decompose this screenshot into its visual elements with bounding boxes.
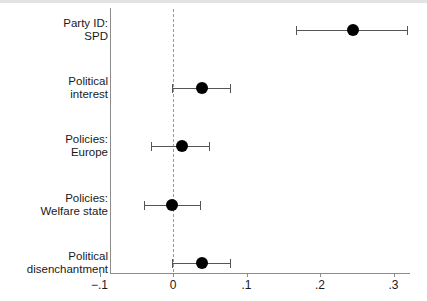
ci-lower-cap (144, 201, 145, 210)
x-tick-label: 0 (170, 278, 177, 292)
category-label-line1: Party ID: (63, 17, 108, 30)
category-label-line1: Political (68, 75, 108, 88)
ci-lower-cap (172, 84, 173, 93)
category-label: Policies: Europe (65, 133, 108, 159)
x-tick-label: .2 (315, 278, 325, 292)
point-estimate-marker (196, 82, 208, 94)
x-tick-mark (394, 273, 395, 277)
category-label-line2: interest (68, 88, 108, 101)
point-estimate-marker (166, 199, 178, 211)
category-label-line1: Policies: (65, 133, 108, 146)
x-tick-label: .1 (241, 278, 251, 292)
category-label-line1: Political (27, 250, 108, 263)
x-tick-mark (173, 273, 174, 277)
ci-lower-cap (151, 142, 152, 151)
x-tick-mark (320, 273, 321, 277)
coefficient-plot-figure: Party ID: SPD Political interest Policie… (0, 0, 427, 301)
x-tick-label: .3 (388, 278, 398, 292)
ci-lower-cap (172, 259, 173, 268)
x-axis-line (110, 273, 410, 274)
category-label: Political interest (68, 75, 108, 101)
ci-upper-cap (209, 142, 210, 151)
ci-lower-cap (296, 26, 297, 35)
x-tick-label: −.1 (91, 278, 108, 292)
ci-upper-cap (230, 84, 231, 93)
x-tick-mark (100, 273, 101, 277)
point-estimate-marker (176, 140, 188, 152)
x-tick-mark (247, 273, 248, 277)
zero-reference-line (173, 9, 174, 272)
point-estimate-marker (196, 257, 208, 269)
top-border-band (0, 0, 427, 3)
category-label: Party ID: SPD (63, 17, 108, 43)
ci-upper-cap (407, 26, 408, 35)
ci-upper-cap (200, 201, 201, 210)
category-label: Political disenchantment (27, 250, 108, 276)
category-label-line2: disenchantment (27, 263, 108, 276)
category-label-line1: Policies: (40, 192, 108, 205)
point-estimate-marker (347, 24, 359, 36)
category-label-line2: Welfare state (40, 205, 108, 218)
category-label: Policies: Welfare state (40, 192, 108, 218)
category-label-line2: SPD (63, 30, 108, 43)
category-label-line2: Europe (65, 146, 108, 159)
y-axis-line (110, 8, 111, 273)
ci-upper-cap (230, 259, 231, 268)
